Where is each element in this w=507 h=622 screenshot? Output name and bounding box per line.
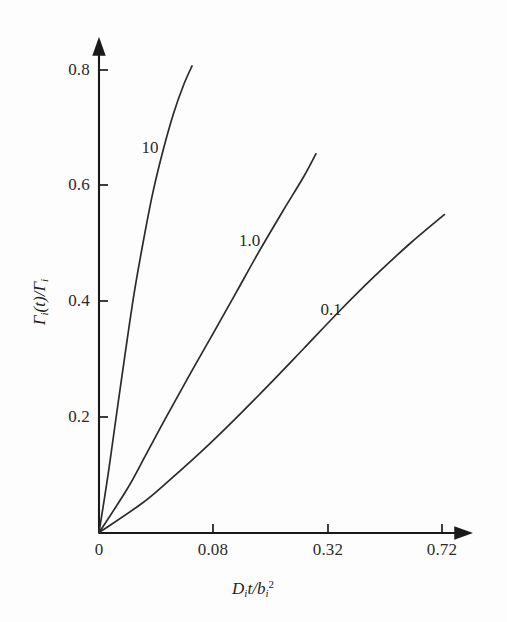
x-tick-label-0: 0: [95, 540, 104, 560]
x-axis-title: Dit/bi2: [232, 578, 274, 599]
y-tick-marks: [99, 70, 108, 417]
y-axis-title: Γi(t)/Γi: [30, 279, 50, 325]
x-tick-label-3: 0.72: [427, 540, 458, 560]
x-tick-label-2: 0.32: [313, 540, 344, 560]
curve-series-1-0: [99, 154, 316, 533]
y-tick-label-1: 0.4: [54, 291, 90, 311]
x-tick-label-1: 0.08: [198, 540, 229, 560]
y-tick-label-3: 0.8: [54, 60, 90, 80]
curve-annotation-0-1: 0.1: [321, 300, 342, 320]
curve-annotation-10: 10: [142, 138, 159, 158]
curve-series-0-1: [99, 215, 444, 533]
chart-figure: 0 0.08 0.32 0.72 0.2 0.4 0.6 0.8 10 1.0 …: [0, 0, 507, 622]
y-tick-label-0: 0.2: [54, 407, 90, 427]
curve-annotation-1-0: 1.0: [239, 231, 260, 251]
data-curves: [99, 66, 444, 533]
plot-area: [0, 0, 507, 622]
y-tick-label-2: 0.6: [54, 175, 90, 195]
x-tick-marks: [213, 524, 442, 533]
curve-series-10: [99, 66, 192, 533]
